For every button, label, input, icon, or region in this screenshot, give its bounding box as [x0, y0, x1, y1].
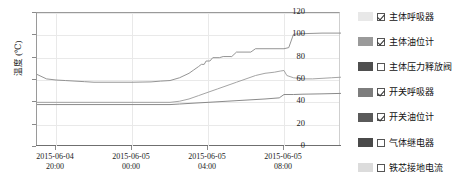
checkbox-checked-icon[interactable] [377, 113, 385, 121]
caption-clipped-text [60, 188, 360, 195]
y-tick-mark [32, 34, 36, 35]
x-tick-time: 00:00 [101, 162, 161, 172]
y-tick-mark [32, 101, 36, 102]
checkbox-checked-icon[interactable] [377, 38, 385, 46]
checkbox-checked-icon[interactable] [377, 13, 385, 21]
x-tick-time: 08:00 [253, 162, 313, 172]
x-tick-mark [55, 146, 56, 150]
x-tick-date: 2015-06-04 [25, 152, 85, 162]
series-line [37, 71, 341, 103]
legend-color-swatch [358, 113, 373, 122]
legend-item-2[interactable]: 主体压力释放阀 [358, 54, 473, 79]
x-tick-label: 2015-06-0420:00 [25, 152, 85, 172]
x-tick-label: 2015-06-0508:00 [253, 152, 313, 172]
legend-item-4[interactable]: 开关油位计 [358, 105, 473, 130]
y-tick-mark [32, 124, 36, 125]
legend-color-swatch [358, 37, 373, 46]
checkbox-unchecked-icon[interactable] [377, 164, 385, 172]
legend-panel[interactable]: 主体呼吸器主体油位计主体压力释放阀开关呼吸器开关油位计气体继电器铁芯接地电流 [358, 4, 473, 192]
legend-color-swatch [358, 88, 373, 97]
legend-color-swatch [358, 62, 373, 71]
x-tick-mark [131, 146, 132, 150]
y-tick-label: 20 [297, 119, 306, 128]
y-tick-label: 80 [297, 52, 306, 61]
legend-item-6[interactable]: 铁芯接地电流 [358, 155, 473, 180]
legend-item-label: 铁芯接地电流 [389, 163, 443, 173]
x-tick-label: 2015-06-0504:00 [177, 152, 237, 172]
y-tick-label: 100 [292, 29, 305, 38]
x-tick-time: 20:00 [25, 162, 85, 172]
checkbox-checked-icon[interactable] [377, 88, 385, 96]
legend-item-label: 主体油位计 [389, 37, 434, 47]
y-tick-label: 60 [297, 74, 306, 83]
legend-item-label: 主体压力释放阀 [389, 62, 452, 72]
checkbox-unchecked-icon[interactable] [377, 63, 385, 71]
x-tick-label: 2015-06-0500:00 [101, 152, 161, 172]
y-tick-mark [32, 79, 36, 80]
x-tick-mark [207, 146, 208, 150]
legend-item-label: 开关油位计 [389, 112, 434, 122]
legend-item-5[interactable]: 气体继电器 [358, 130, 473, 155]
legend-item-3[interactable]: 开关呼吸器 [358, 80, 473, 105]
y-tick-label: 40 [297, 96, 306, 105]
y-tick-mark [32, 57, 36, 58]
legend-item-1[interactable]: 主体油位计 [358, 29, 473, 54]
chart-screenshot: 温度 (℃) 020406080100120 2015-06-0420:0020… [0, 0, 473, 195]
x-tick-date: 2015-06-05 [177, 152, 237, 162]
legend-color-swatch [358, 12, 373, 21]
legend-color-swatch [358, 163, 373, 172]
x-tick-time: 04:00 [177, 162, 237, 172]
x-tick-date: 2015-06-05 [101, 152, 161, 162]
legend-item-label: 气体继电器 [389, 138, 434, 148]
series-line [37, 33, 341, 82]
x-tick-date: 2015-06-05 [253, 152, 313, 162]
y-tick-mark [32, 146, 36, 147]
y-tick-label: 120 [292, 7, 305, 16]
checkbox-unchecked-icon[interactable] [377, 139, 385, 147]
temperature-line-chart: 温度 (℃) 020406080100120 2015-06-0420:0020… [0, 0, 345, 195]
legend-item-label: 开关呼吸器 [389, 87, 434, 97]
legend-item-0[interactable]: 主体呼吸器 [358, 4, 473, 29]
y-axis-label: 温度 (℃) [14, 28, 23, 88]
legend-item-label: 主体呼吸器 [389, 12, 434, 22]
x-tick-mark [283, 146, 284, 150]
y-tick-label: 0 [301, 141, 305, 150]
y-tick-mark [32, 12, 36, 13]
legend-color-swatch [358, 138, 373, 147]
